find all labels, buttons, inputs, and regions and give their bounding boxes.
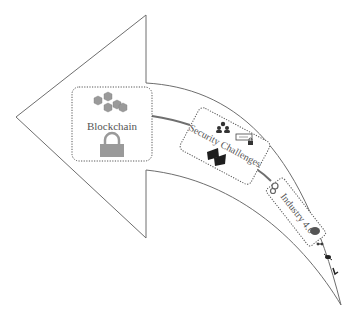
- blockchain-node: Blockchain: [72, 87, 152, 161]
- industrial-robot-icon: [333, 268, 338, 274]
- curved-arrow-outline: [16, 15, 341, 305]
- brain-icon: [310, 227, 320, 235]
- diagram-canvas: Blockchain Security Challenges Industry …: [0, 0, 358, 321]
- blockchain-label: Blockchain: [87, 120, 138, 132]
